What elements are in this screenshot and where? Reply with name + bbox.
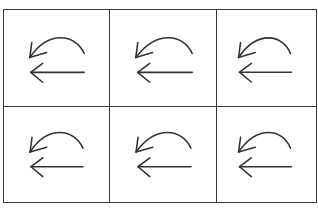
undo-back-arrow-icon [110,107,216,202]
undo-back-arrow-icon [110,10,216,106]
grid-cell-r2-c1[interactable] [4,107,110,202]
grid-cell-r1-c3[interactable] [217,10,316,107]
undo-back-arrow-icon [217,10,316,106]
grid-cell-r2-c2[interactable] [110,107,217,202]
grid-cell-r1-c1[interactable] [4,10,110,107]
grid-cell-r1-c2[interactable] [110,10,217,107]
icon-grid [3,9,317,203]
grid-cell-r2-c3[interactable] [217,107,316,202]
undo-back-arrow-icon [217,107,316,202]
undo-back-arrow-icon [4,10,109,106]
undo-back-arrow-icon [4,107,109,202]
